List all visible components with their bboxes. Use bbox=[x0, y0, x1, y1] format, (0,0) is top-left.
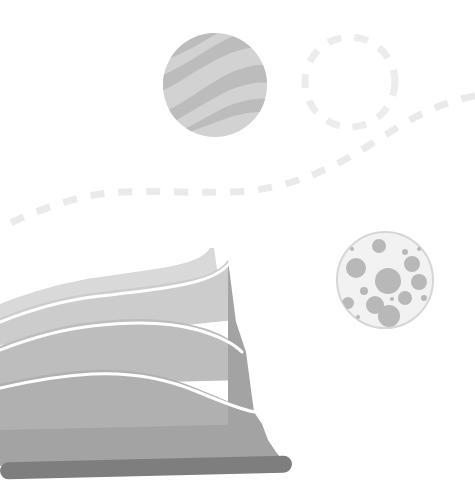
bubble-dot bbox=[350, 247, 354, 251]
abstract-illustration bbox=[0, 0, 475, 499]
bubble-dot bbox=[402, 249, 408, 255]
bubble-dot bbox=[372, 239, 386, 253]
bubble-dot bbox=[356, 315, 360, 319]
bubble-dot bbox=[421, 295, 427, 301]
bubble-dot bbox=[390, 297, 394, 301]
bubble-dot bbox=[417, 247, 421, 251]
bubble-dot bbox=[404, 256, 420, 272]
bubble-dot bbox=[411, 274, 427, 290]
bubble-dot bbox=[346, 258, 366, 278]
bubble-dot bbox=[398, 291, 412, 305]
bubble-dot bbox=[375, 268, 401, 294]
illustration-canvas bbox=[0, 0, 475, 499]
bubble-circle bbox=[337, 232, 433, 328]
bubble-dot bbox=[360, 287, 368, 295]
bubble-dot bbox=[378, 305, 400, 327]
